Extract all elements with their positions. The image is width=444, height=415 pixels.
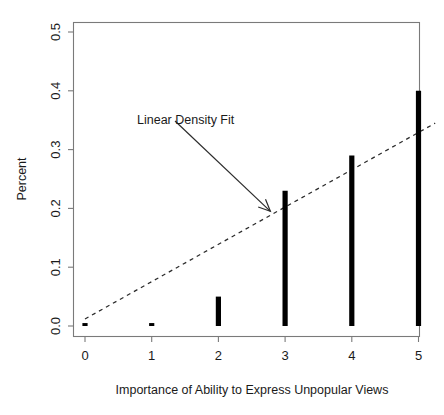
y-axis-ticks (68, 32, 74, 326)
x-tick-label-0: 0 (81, 348, 88, 363)
x-tick-label-4: 4 (348, 348, 355, 363)
annotation-arrow (175, 121, 270, 211)
x-axis-tick-labels: 0 1 2 3 4 5 (81, 348, 422, 363)
percent-vs-importance-needle-plot: 0.0 0.1 0.2 0.3 0.4 0.5 Percent 0 1 2 3 … (0, 0, 444, 415)
arrow-shaft (175, 121, 270, 211)
y-axis-tick-labels: 0.0 0.1 0.2 0.3 0.4 0.5 (48, 23, 63, 335)
x-tick-label-1: 1 (148, 348, 155, 363)
y-tick-label-0: 0.0 (48, 317, 63, 335)
y-tick-label-1: 0.1 (48, 258, 63, 276)
x-tick-label-2: 2 (215, 348, 222, 363)
x-tick-label-3: 3 (281, 348, 288, 363)
y-tick-label-3: 0.3 (48, 141, 63, 159)
x-tick-label-5: 5 (415, 348, 422, 363)
linear-density-fit-annotation: Linear Density Fit (137, 113, 235, 127)
x-axis-title: Importance of Ability to Express Unpopul… (116, 383, 389, 397)
y-tick-label-5: 0.5 (48, 23, 63, 41)
y-tick-label-4: 0.4 (48, 82, 63, 100)
y-tick-label-2: 0.2 (48, 199, 63, 217)
y-axis-title: Percent (15, 157, 29, 201)
linear-density-fit-line (85, 123, 435, 319)
chart-container: 0.0 0.1 0.2 0.3 0.4 0.5 Percent 0 1 2 3 … (0, 0, 444, 415)
plot-frame (74, 23, 420, 337)
x-axis-ticks (85, 337, 419, 343)
